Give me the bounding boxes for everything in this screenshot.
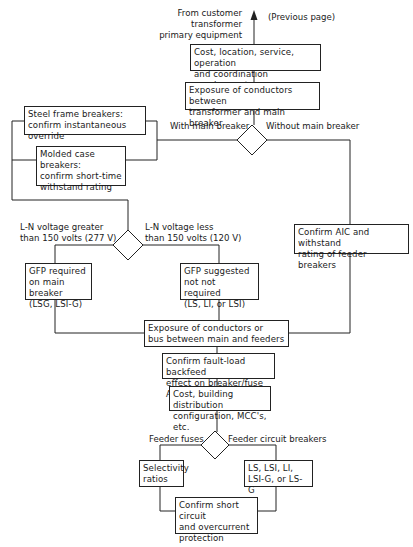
arrow-up-icon — [251, 10, 258, 20]
label-voltage-less: L-N voltage less than 150 volts (120 V) — [145, 222, 241, 244]
box-molded-case: Molded case breakers: confirm short-time… — [36, 146, 126, 186]
label-with-main-breaker: With main breaker — [170, 121, 249, 132]
box-gfp-suggested: GFP suggested not not required (LS, LI, … — [180, 263, 259, 300]
label-without-main-breaker: Without main breaker — [266, 121, 359, 132]
source-label: From customer transformer primary equipm… — [130, 8, 242, 41]
box-fault-load: Confirm fault-load backfeed effect on br… — [162, 353, 275, 379]
box-cost-location: Cost, location, service, operation and c… — [190, 44, 321, 71]
label-feeder-circuit-breakers: Feeder circuit breakers — [228, 434, 327, 445]
previous-page-label: (Previous page) — [268, 12, 335, 23]
box-selectivity: Selectivity ratios — [139, 460, 184, 487]
box-exposure-transformer: Exposure of conductors between transform… — [185, 82, 320, 110]
box-exposure-bus: Exposure of conductors or bus between ma… — [144, 320, 289, 347]
box-gfp-required: GFP required on main breaker (LSG, LSI-G… — [25, 263, 92, 300]
box-confirm-short-circuit: Confirm short circuit and overcurrent pr… — [175, 497, 258, 534]
box-steel-frame: Steel frame breakers: confirm instantane… — [24, 106, 146, 135]
label-feeder-fuses: Feeder fuses — [149, 434, 204, 445]
box-ls-options: LS, LSI, LI, LSI-G, or LS-G — [244, 460, 313, 487]
box-cost-building: Cost, building distribution configuratio… — [169, 386, 271, 411]
box-confirm-aic: Confirm AIC and withstand rating of feed… — [294, 224, 409, 254]
label-voltage-greater: L-N voltage greater than 150 volts (277 … — [20, 222, 116, 244]
